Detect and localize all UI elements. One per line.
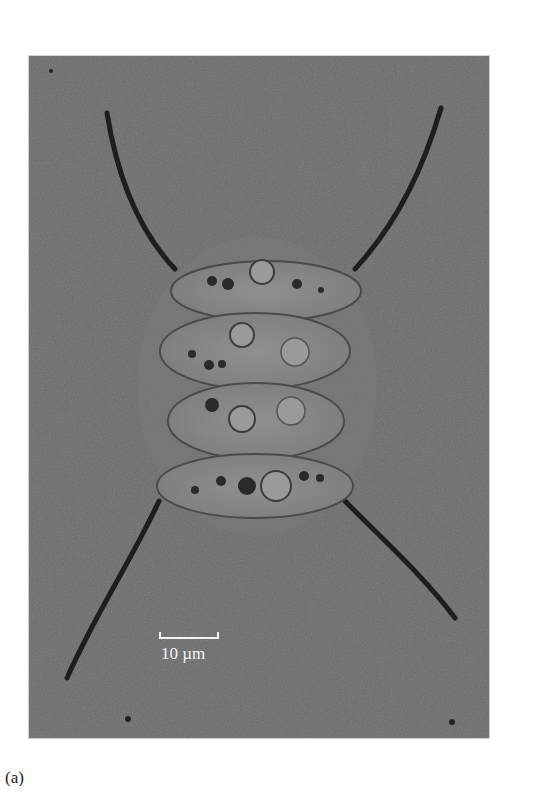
scale-bar-tick-left	[159, 632, 161, 638]
scale-bar-line	[159, 637, 219, 639]
scale-bar-label: 10 µm	[161, 645, 205, 662]
colony-illustration	[29, 56, 490, 739]
scale-bar-tick-right	[217, 632, 219, 638]
panel-label: (a)	[5, 768, 24, 788]
micrograph-image: 10 µm	[28, 55, 490, 739]
figure-panel: 10 µm	[28, 55, 490, 739]
